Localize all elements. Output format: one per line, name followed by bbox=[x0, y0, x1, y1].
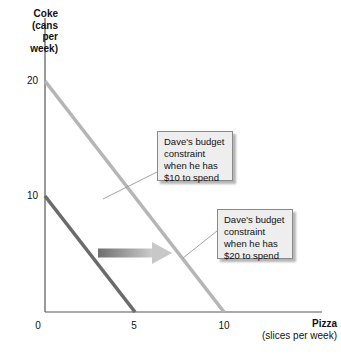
x-tick-label-0: 0 bbox=[28, 320, 48, 331]
x-tick-label-10: 10 bbox=[213, 320, 235, 331]
budget-line-20 bbox=[45, 81, 224, 312]
y-axis-title: Coke (cans per week) bbox=[0, 8, 58, 54]
y-axis-subtitle-3: week) bbox=[30, 43, 58, 54]
y-axis-subtitle-1: (cans bbox=[32, 20, 58, 31]
leader-line-budget-10 bbox=[103, 172, 157, 199]
x-axis-title: Pizza (slices per week) bbox=[232, 318, 337, 341]
budget-constraint-figure: Coke (cans per week) Pizza (slices per w… bbox=[0, 0, 341, 359]
callout-budget-10: Dave's budget constraint when he has $10… bbox=[157, 131, 233, 181]
y-tick-label-20: 20 bbox=[4, 75, 38, 86]
x-axis-subtitle: (slices per week) bbox=[262, 330, 337, 341]
x-tick-label-5: 5 bbox=[124, 320, 144, 331]
y-tick-label-10: 10 bbox=[4, 190, 38, 201]
leader-line-budget-20 bbox=[183, 231, 217, 258]
shift-arrow-icon bbox=[98, 242, 172, 264]
callout-budget-20: Dave's budget constraint when he has $20… bbox=[217, 209, 293, 259]
x-axis-title-main: Pizza bbox=[312, 318, 337, 329]
y-axis-title-main: Coke bbox=[34, 8, 58, 19]
y-axis-subtitle-2: per bbox=[42, 31, 58, 42]
